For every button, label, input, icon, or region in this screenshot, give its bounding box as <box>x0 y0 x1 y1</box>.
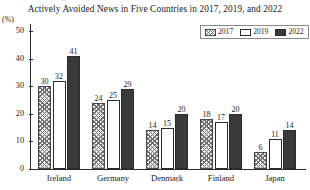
bar-group-japan: 61114Japan <box>254 24 302 169</box>
bar-value-denmark-2019: 15 <box>163 119 171 128</box>
x-axis-line <box>30 169 306 170</box>
bar-finland-2017: 18 <box>200 119 213 169</box>
bar-value-finland-2019: 17 <box>217 113 225 122</box>
y-tick-50 <box>29 31 33 32</box>
bar-finland-2019: 17 <box>215 122 228 169</box>
bar-group-denmark: 141520Denmark <box>146 24 194 169</box>
bar-denmark-2017: 14 <box>146 130 159 169</box>
legend-swatch-2017 <box>205 29 216 36</box>
y-tick-label-30: 30 <box>16 82 24 90</box>
bar-value-ireland-2022: 41 <box>70 47 78 56</box>
bar-value-japan-2019: 11 <box>271 130 279 139</box>
chart-legend: 2017 2019 2022 <box>200 25 309 39</box>
y-tick-label-10: 10 <box>16 137 24 145</box>
bar-japan-2019: 11 <box>269 139 282 169</box>
chart-title: Actively Avoided News in Five Countries … <box>0 4 310 15</box>
bar-value-germany-2017: 24 <box>95 94 103 103</box>
bar-value-japan-2022: 14 <box>286 121 294 130</box>
bar-ireland-2022: 41 <box>67 56 80 169</box>
bar-value-denmark-2022: 20 <box>178 105 186 114</box>
bar-ireland-2017: 30 <box>38 86 51 169</box>
bar-japan-2017: 6 <box>254 152 267 169</box>
legend-item-2019: 2019 <box>240 28 268 36</box>
bar-germany-2019: 25 <box>107 100 120 169</box>
y-axis-line <box>30 24 31 170</box>
bar-value-germany-2019: 25 <box>109 91 117 100</box>
y-tick-40 <box>29 59 33 60</box>
x-axis-label-japan: Japan <box>265 173 285 183</box>
bar-value-finland-2022: 20 <box>232 105 240 114</box>
x-axis-label-germany: Germany <box>97 173 129 183</box>
y-tick-30 <box>29 86 33 87</box>
y-tick-label-40: 40 <box>16 55 24 63</box>
x-axis-label-denmark: Denmark <box>151 173 183 183</box>
legend-label-2022: 2022 <box>288 28 303 36</box>
chart-figure: Percentage of respondents Actively Avoid… <box>0 0 310 190</box>
y-tick-0 <box>29 169 33 170</box>
bar-value-germany-2022: 29 <box>124 80 132 89</box>
bar-group-germany: 242529Germany <box>92 24 140 169</box>
bar-group-finland: 181720Finland <box>200 24 248 169</box>
plot-area: 01020304050 303241Ireland242529Germany14… <box>30 24 306 170</box>
bar-germany-2017: 24 <box>92 103 105 169</box>
legend-item-2022: 2022 <box>275 28 303 36</box>
bar-value-japan-2017: 6 <box>259 143 263 152</box>
y-tick-label-20: 20 <box>16 110 24 118</box>
legend-item-2017: 2017 <box>205 28 233 36</box>
bar-denmark-2022: 20 <box>175 114 188 169</box>
clipped-header-text: Percentage of respondents <box>36 0 114 2</box>
bar-ireland-2019: 32 <box>53 81 66 169</box>
bar-japan-2022: 14 <box>283 130 296 169</box>
bar-value-ireland-2019: 32 <box>55 72 63 81</box>
bar-value-denmark-2017: 14 <box>149 121 157 130</box>
x-axis-label-finland: Finland <box>208 173 234 183</box>
legend-label-2019: 2019 <box>253 28 268 36</box>
bar-finland-2022: 20 <box>229 114 242 169</box>
x-axis-label-ireland: Ireland <box>47 173 71 183</box>
y-tick-20 <box>29 114 33 115</box>
legend-label-2017: 2017 <box>218 28 233 36</box>
legend-swatch-2019 <box>240 29 251 36</box>
bar-denmark-2019: 15 <box>161 128 174 169</box>
y-tick-label-50: 50 <box>16 27 24 35</box>
y-axis-unit-label: (%) <box>2 15 14 24</box>
legend-swatch-2022 <box>275 29 286 36</box>
bar-value-ireland-2017: 30 <box>41 77 49 86</box>
y-tick-label-0: 0 <box>20 165 24 173</box>
bar-germany-2022: 29 <box>121 89 134 169</box>
y-tick-10 <box>29 141 33 142</box>
bar-group-ireland: 303241Ireland <box>38 24 86 169</box>
bar-value-finland-2017: 18 <box>203 110 211 119</box>
